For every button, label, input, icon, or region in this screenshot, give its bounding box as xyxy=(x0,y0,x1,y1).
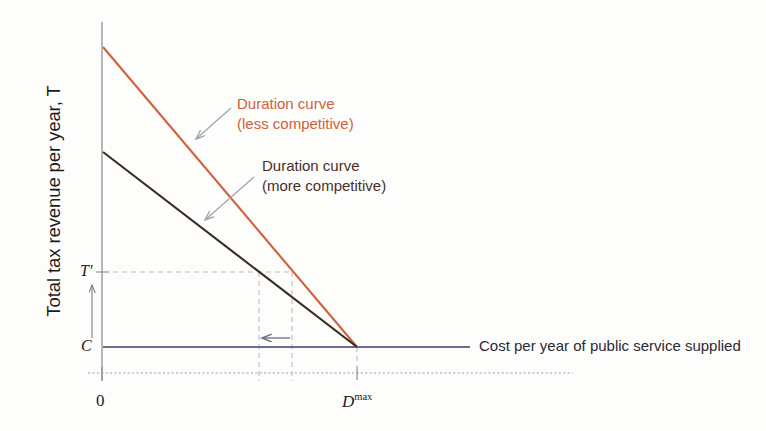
pointer-to-less-competitive-arrow xyxy=(196,108,231,139)
y-axis-title: Total tax revenue per year, T xyxy=(43,21,65,381)
x-tick-label-dmax-sup: max xyxy=(354,391,372,402)
legend-more-competitive: Duration curve (more competitive) xyxy=(262,156,386,196)
x-tick-label-dmax: Dmax xyxy=(342,391,372,412)
legend-more-competitive-line2: (more competitive) xyxy=(262,176,386,196)
x-tick-label-dmax-base: D xyxy=(342,392,354,411)
chart-canvas xyxy=(0,0,766,431)
duration-curve-chart: Total tax revenue per year, T Duration c… xyxy=(0,0,766,431)
cost-line-label: Cost per year of public service supplied xyxy=(479,337,741,354)
x-tick-label-origin: 0 xyxy=(96,391,105,411)
legend-more-competitive-line1: Duration curve xyxy=(262,156,386,176)
pointer-to-more-competitive-arrow xyxy=(205,177,254,220)
legend-less-competitive-line1: Duration curve xyxy=(237,94,354,114)
y-tick-label-tprime: T' xyxy=(80,262,92,280)
legend-less-competitive-line2: (less competitive) xyxy=(237,114,354,134)
y-tick-label-cost: C xyxy=(81,337,92,355)
legend-less-competitive: Duration curve (less competitive) xyxy=(237,94,354,134)
duration-curve-less-competitive xyxy=(103,47,357,347)
